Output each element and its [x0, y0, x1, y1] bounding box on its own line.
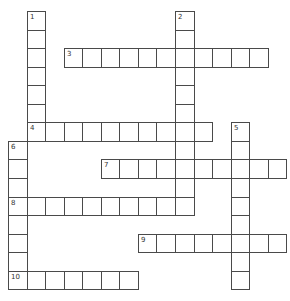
- crossword-cell[interactable]: [268, 234, 287, 253]
- crossword-cell[interactable]: [8, 215, 28, 235]
- crossword-cell[interactable]: [175, 104, 195, 123]
- crossword-cell[interactable]: [231, 159, 250, 179]
- crossword-cell[interactable]: 5: [231, 122, 250, 142]
- clue-number: 1: [30, 13, 34, 21]
- clue-number: 8: [11, 199, 15, 207]
- crossword-cell[interactable]: [194, 159, 213, 179]
- crossword-cell[interactable]: 8: [8, 197, 28, 216]
- crossword-cell[interactable]: [175, 197, 195, 216]
- crossword-cell[interactable]: [8, 234, 28, 253]
- crossword-cell[interactable]: [45, 122, 65, 142]
- crossword-cell[interactable]: [45, 271, 65, 290]
- crossword-cell[interactable]: 4: [27, 122, 46, 142]
- crossword-cell[interactable]: [231, 141, 250, 160]
- crossword-cell[interactable]: [175, 122, 195, 142]
- crossword-cell[interactable]: [101, 271, 120, 290]
- crossword-cell[interactable]: [138, 48, 157, 68]
- crossword-cell[interactable]: [27, 67, 46, 86]
- crossword-cell[interactable]: [101, 48, 120, 68]
- crossword-cell[interactable]: [231, 215, 250, 235]
- crossword-cell[interactable]: 10: [8, 271, 28, 290]
- crossword-cell[interactable]: [175, 85, 195, 105]
- crossword-cell[interactable]: [101, 122, 120, 142]
- crossword-cell[interactable]: [231, 252, 250, 272]
- crossword-cell[interactable]: [119, 159, 139, 179]
- crossword-cell[interactable]: [156, 48, 176, 68]
- crossword-cell[interactable]: [119, 197, 139, 216]
- crossword-cell[interactable]: [268, 159, 287, 179]
- crossword-cell[interactable]: [27, 104, 46, 123]
- crossword-cell[interactable]: [156, 197, 176, 216]
- crossword-cell[interactable]: [64, 122, 83, 142]
- crossword-cell[interactable]: [194, 234, 213, 253]
- crossword-cell[interactable]: [156, 122, 176, 142]
- crossword-cell[interactable]: [175, 30, 195, 49]
- crossword-cell[interactable]: [194, 122, 213, 142]
- clue-number: 10: [11, 273, 20, 281]
- crossword-cell[interactable]: [175, 234, 195, 253]
- crossword-cell[interactable]: [119, 48, 139, 68]
- crossword-cell[interactable]: [231, 48, 250, 68]
- crossword-cell[interactable]: [231, 271, 250, 290]
- crossword-cell[interactable]: [231, 234, 250, 253]
- crossword-cell[interactable]: [27, 30, 46, 49]
- crossword-cell[interactable]: [231, 178, 250, 198]
- clue-number: 9: [141, 236, 145, 244]
- crossword-cell[interactable]: [45, 197, 65, 216]
- crossword-cell[interactable]: [82, 271, 102, 290]
- crossword-cell[interactable]: [82, 48, 102, 68]
- clue-number: 3: [67, 50, 71, 58]
- crossword-cell[interactable]: [175, 48, 195, 68]
- crossword-cell[interactable]: [249, 48, 269, 68]
- crossword-cell[interactable]: [175, 159, 195, 179]
- crossword-cell[interactable]: [27, 197, 46, 216]
- clue-number: 5: [234, 124, 238, 132]
- crossword-cell[interactable]: [212, 159, 232, 179]
- crossword-cell[interactable]: [194, 48, 213, 68]
- crossword-grid: 14235681079: [0, 0, 290, 301]
- crossword-cell[interactable]: [212, 48, 232, 68]
- crossword-cell[interactable]: 9: [138, 234, 157, 253]
- clue-number: 2: [178, 13, 182, 21]
- clue-number: 4: [30, 124, 34, 132]
- crossword-cell[interactable]: [156, 234, 176, 253]
- crossword-cell[interactable]: [138, 159, 157, 179]
- crossword-cell[interactable]: [64, 271, 83, 290]
- crossword-cell[interactable]: [64, 197, 83, 216]
- crossword-cell[interactable]: 3: [64, 48, 83, 68]
- crossword-cell[interactable]: [138, 122, 157, 142]
- crossword-cell[interactable]: [101, 197, 120, 216]
- crossword-cell[interactable]: 6: [8, 141, 28, 160]
- crossword-cell[interactable]: [249, 234, 269, 253]
- crossword-cell[interactable]: 2: [175, 11, 195, 31]
- crossword-cell[interactable]: [82, 122, 102, 142]
- crossword-cell[interactable]: [8, 252, 28, 272]
- crossword-cell[interactable]: [119, 122, 139, 142]
- crossword-cell[interactable]: [8, 178, 28, 198]
- crossword-cell[interactable]: [82, 197, 102, 216]
- crossword-cell[interactable]: [27, 271, 46, 290]
- crossword-cell[interactable]: 1: [27, 11, 46, 31]
- crossword-cell[interactable]: [119, 271, 139, 290]
- crossword-cell[interactable]: [175, 141, 195, 160]
- crossword-cell[interactable]: [27, 48, 46, 68]
- crossword-cell[interactable]: 7: [101, 159, 120, 179]
- clue-number: 7: [104, 161, 108, 169]
- crossword-cell[interactable]: [27, 85, 46, 105]
- crossword-cell[interactable]: [156, 159, 176, 179]
- crossword-cell[interactable]: [249, 159, 269, 179]
- crossword-cell[interactable]: [138, 197, 157, 216]
- crossword-cell[interactable]: [231, 197, 250, 216]
- crossword-cell[interactable]: [8, 159, 28, 179]
- crossword-cell[interactable]: [212, 234, 232, 253]
- crossword-cell[interactable]: [175, 67, 195, 86]
- clue-number: 6: [11, 143, 15, 151]
- crossword-cell[interactable]: [175, 178, 195, 198]
